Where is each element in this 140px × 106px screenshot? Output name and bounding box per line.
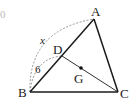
label-six: 6 xyxy=(35,63,41,75)
label-g: G xyxy=(74,71,83,86)
segment-dc xyxy=(62,56,118,92)
label-c: C xyxy=(120,86,129,101)
segment-ca xyxy=(94,19,118,92)
label-b: B xyxy=(18,85,27,100)
label-d: D xyxy=(53,42,62,57)
point-g xyxy=(79,66,83,70)
label-x: x xyxy=(39,34,45,46)
triangle-diagram: A B C D G x 6 0 xyxy=(0,0,140,106)
label-corner: 0 xyxy=(0,8,6,20)
label-a: A xyxy=(91,4,101,19)
